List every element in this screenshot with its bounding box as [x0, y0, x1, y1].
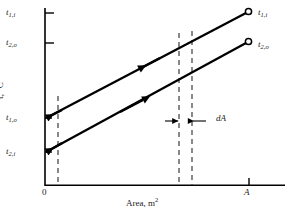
cold-stream-line — [46, 43, 246, 152]
y-tick-label-t1o: t1,o — [6, 113, 17, 122]
curve-end-label-cold: t2,o — [258, 40, 269, 49]
cold-stream-endpoint-marker — [245, 38, 251, 44]
y-tick-label-t1i: t1,i — [6, 8, 15, 17]
x-end-label: A — [244, 188, 250, 197]
x-axis-title: Area, m2 — [126, 199, 158, 208]
x-origin-label: 0 — [42, 188, 47, 197]
hot-stream-outlet-arrow — [47, 110, 63, 118]
cold-stream-flow-arrow — [120, 100, 143, 112]
hot-stream-flow-arrow — [139, 58, 160, 69]
curve-end-label-hot: t1,i — [258, 8, 267, 17]
y-tick-label-t2o: t2,o — [6, 38, 17, 47]
y-tick-label-t2i: t2,i — [6, 147, 15, 156]
hot-stream-endpoint-marker — [245, 8, 251, 14]
dA-label: dA — [216, 114, 226, 123]
cold-stream-inlet-arrow — [47, 143, 63, 152]
chart-canvas — [0, 0, 299, 216]
heat-exchanger-temperature-chart: t1,i t2,o t1,o t2,i t1,i t2,o dA 0 A Are… — [0, 0, 299, 216]
y-axis-title: t, °C — [0, 82, 5, 99]
